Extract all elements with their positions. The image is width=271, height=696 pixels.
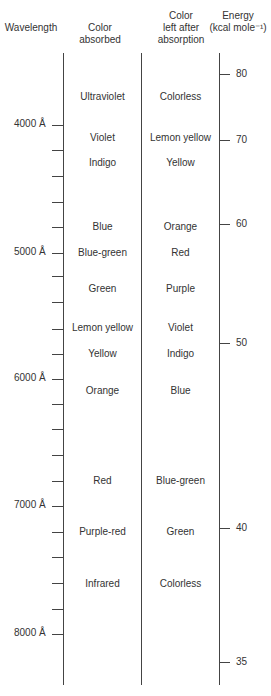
wavelength-tick [52,506,63,507]
header-wavelength: Wavelength [2,22,60,34]
energy-label: 40 [236,522,247,534]
remaining-color: Colorless [142,91,219,103]
remaining-color: Yellow [142,157,219,169]
header-absorbed-line1: Color [70,22,130,34]
wavelength-tick [52,125,63,126]
wavelength-tick [52,253,63,254]
remaining-color: Red [142,247,219,259]
wavelength-tick [52,276,63,277]
wavelength-tick [52,354,63,355]
energy-label: 80 [236,68,247,80]
absorbed-color: Lemon yellow [64,322,141,334]
wavelength-tick [52,150,63,151]
absorbed-color: Blue-green [64,247,141,259]
energy-label: 70 [236,134,247,146]
wavelength-tick [52,429,63,430]
energy-tick [220,140,230,141]
remaining-color: Blue-green [142,475,219,487]
wavelength-tick [52,329,63,330]
absorbed-color: Green [64,283,141,295]
header-color-absorbed: Color absorbed [70,22,130,46]
absorbed-color: Orange [64,385,141,397]
remaining-color: Indigo [142,348,219,360]
wavelength-tick [52,302,63,303]
wavelength-label: 6000 Å [14,372,46,384]
absorbed-color: Ultraviolet [64,91,141,103]
remaining-color: Colorless [142,578,219,590]
wavelength-tick [52,379,63,380]
wavelength-tick [52,404,63,405]
absorbed-color: Yellow [64,348,141,360]
energy-tick [220,343,230,344]
header-energy: Energy (kcal mole⁻¹) [205,10,271,34]
header-left-line3: absorption [148,34,214,46]
wavelength-tick [52,455,63,456]
remaining-color: Orange [142,221,219,233]
energy-label: 35 [236,656,247,668]
wavelength-axis-line [63,53,64,685]
remaining-color: Violet [142,322,219,334]
energy-tick [220,74,230,75]
absorbed-color: Red [64,475,141,487]
wavelength-tick [52,481,63,482]
header-absorbed-line2: absorbed [70,34,130,46]
energy-label: 50 [236,337,247,349]
wavelength-tick [52,583,63,584]
wavelength-label: 4000 Å [14,118,46,130]
wavelength-tick [52,609,63,610]
remaining-color: Purple [142,283,219,295]
remaining-color: Green [142,526,219,538]
remaining-color: Lemon yellow [142,132,219,144]
wavelength-label: 7000 Å [14,499,46,511]
absorbed-color: Purple-red [64,526,141,538]
energy-tick [220,224,230,225]
wavelength-label: 8000 Å [14,627,46,639]
absorbed-color: Indigo [64,157,141,169]
wavelength-tick [52,532,63,533]
energy-label: 60 [236,218,247,230]
absorbed-color: Blue [64,221,141,233]
absorbed-color: Violet [64,132,141,144]
header-energy-line2: (kcal mole⁻¹) [205,22,271,34]
header-energy-line1: Energy [205,10,271,22]
wavelength-tick [52,227,63,228]
energy-axis-line [219,53,220,685]
wavelength-tick [52,557,63,558]
energy-tick [220,528,230,529]
wavelength-tick [52,634,63,635]
absorbed-color: Infrared [64,578,141,590]
wavelength-tick [52,202,63,203]
wavelength-label: 5000 Å [14,246,46,258]
wavelength-tick [52,176,63,177]
energy-tick [220,662,230,663]
remaining-color: Blue [142,385,219,397]
column-divider-line [141,53,142,685]
